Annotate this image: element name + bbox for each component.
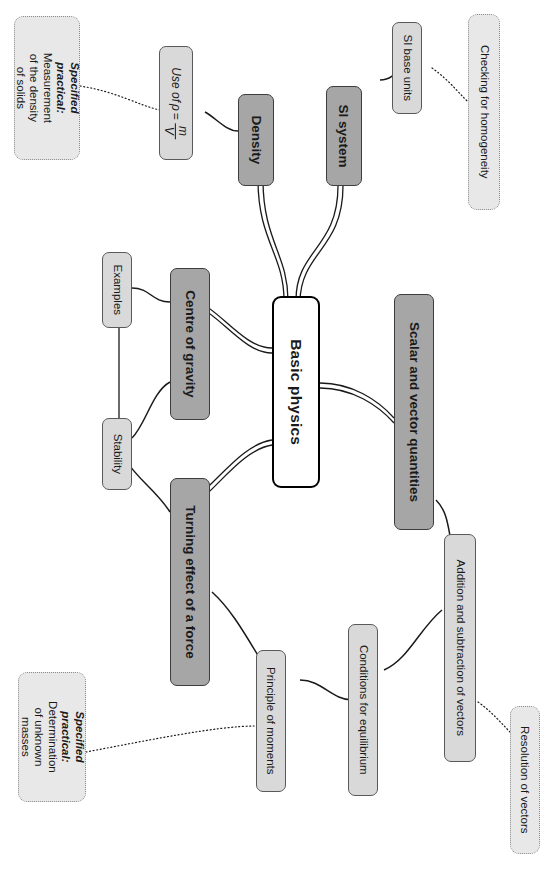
edge-equilibrium-addition [384, 610, 442, 670]
edge-central-scalar-2 [320, 388, 394, 423]
edge-central-si-2 [300, 186, 343, 301]
sub-branch-stability-label: Stability [110, 434, 124, 474]
practical-density-body: Measurement of the density of solids [15, 53, 54, 123]
practical-density-box[interactable]: Specified practical: Measurement of the … [14, 16, 80, 160]
sub-branch-addition-subtraction-vectors-label: Addition and subtraction of vectors [453, 560, 467, 736]
practical-density-text: Specified practical: Measurement of the … [13, 53, 81, 123]
main-branch-si-system-label: SI system [336, 104, 352, 167]
edge-cog-stability [132, 382, 170, 438]
sub-branch-principle-of-moments[interactable]: Principle of moments [256, 650, 286, 792]
edge-practical-density [80, 86, 160, 110]
edge-density-rho [205, 112, 238, 131]
note-resolution-of-vectors[interactable]: Resolution of vectors [510, 706, 540, 854]
main-branch-centre-of-gravity[interactable]: Centre of gravity [170, 268, 210, 420]
practical-masses-body: Determination of unknown masses [20, 701, 59, 773]
sub-branch-addition-subtraction-vectors[interactable]: Addition and subtraction of vectors [444, 534, 476, 762]
sub-branch-si-base-units-label: SI base units [400, 35, 414, 101]
main-branch-scalar-vector-label: Scalar and vector quantities [406, 322, 422, 502]
main-branch-si-system[interactable]: SI system [326, 86, 362, 186]
edge-homogeneity [432, 68, 472, 105]
edge-resolution-vectors [478, 702, 512, 734]
edge-turning-moments [212, 592, 262, 662]
main-branch-centre-of-gravity-label: Centre of gravity [182, 290, 198, 397]
edge-practical-masses [86, 726, 256, 752]
edge-central-si [296, 186, 338, 300]
practical-masses-box[interactable]: Specified practical: Determination of un… [18, 672, 86, 802]
formula-denominator: V [163, 124, 176, 138]
sub-branch-si-base-units[interactable]: SI base units [392, 22, 422, 114]
note-checking-homogeneity-label: Checking for homogeneity [477, 45, 491, 179]
mind-map-canvas: Basic physics Density SI system Centre o… [0, 0, 550, 870]
sub-branch-examples-label: Examples [110, 265, 124, 316]
edge-central-density [258, 180, 284, 300]
practical-density-heading: Specified practical: [55, 62, 81, 113]
practical-masses-heading: Specified practical: [60, 711, 86, 762]
edge-cog-examples [132, 288, 170, 302]
formula-equals: = [169, 113, 183, 120]
edge-stability-turning [126, 460, 170, 512]
main-branch-turning-effect[interactable]: Turning effect of a force [170, 478, 210, 686]
formula-symbol: ρ [169, 104, 183, 111]
formula-numerator: m [176, 123, 190, 139]
edge-central-density-2 [263, 180, 288, 300]
edge-central-scalar [320, 383, 394, 418]
sub-branch-use-of-rho-label: Use of ρ = m V [163, 67, 189, 139]
sub-branch-examples[interactable]: Examples [102, 252, 132, 328]
sub-branch-conditions-for-equilibrium-label: Conditions for equilibrium [356, 645, 370, 775]
note-resolution-of-vectors-label: Resolution of vectors [518, 726, 532, 833]
sub-branch-conditions-for-equilibrium[interactable]: Conditions for equilibrium [348, 624, 378, 796]
sub-branch-use-of-rho[interactable]: Use of ρ = m V [159, 46, 193, 160]
formula-fraction: m V [163, 123, 189, 139]
central-node-label: Basic physics [287, 339, 305, 445]
central-node-basic-physics[interactable]: Basic physics [272, 296, 320, 488]
practical-masses-text: Specified practical: Determination of un… [18, 701, 86, 773]
note-checking-homogeneity[interactable]: Checking for homogeneity [468, 14, 500, 210]
edge-moments-equilibrium [300, 680, 352, 700]
formula-prefix: Use of [169, 67, 183, 102]
density-formula: Use of ρ = m V [163, 67, 189, 139]
sub-branch-principle-of-moments-label: Principle of moments [264, 667, 278, 774]
main-branch-density-label: Density [248, 116, 264, 165]
main-branch-density[interactable]: Density [238, 94, 274, 186]
sub-branch-stability[interactable]: Stability [102, 418, 132, 490]
main-branch-turning-effect-label: Turning effect of a force [182, 505, 198, 659]
main-branch-scalar-vector[interactable]: Scalar and vector quantities [394, 294, 434, 530]
